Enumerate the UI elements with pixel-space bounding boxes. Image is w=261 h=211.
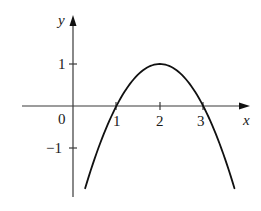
x-axis-arrow-icon bbox=[239, 103, 250, 110]
x-axis-label: x bbox=[242, 112, 250, 128]
parabola-chart: y x 1 −1 0 1 2 3 bbox=[0, 0, 261, 211]
y-tick-label-minus-1: −1 bbox=[46, 140, 62, 156]
x-tick-label-3: 3 bbox=[197, 113, 205, 129]
x-tick-label-1: 1 bbox=[113, 113, 121, 129]
y-axis-arrow-icon bbox=[70, 15, 77, 26]
x-tick-label-2: 2 bbox=[156, 113, 164, 129]
y-axis-label: y bbox=[56, 12, 65, 28]
origin-label: 0 bbox=[58, 111, 66, 127]
y-tick-label-1: 1 bbox=[58, 56, 66, 72]
